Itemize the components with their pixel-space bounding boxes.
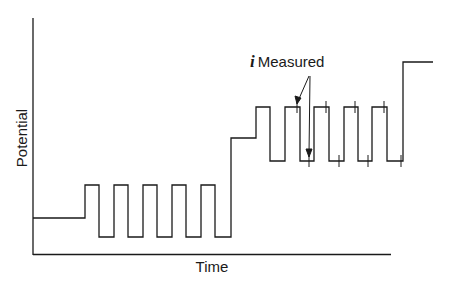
axes <box>33 18 391 255</box>
annotation-text: Measured <box>258 53 325 70</box>
current-symbol: i <box>250 52 255 71</box>
potential-waveform <box>33 62 433 237</box>
annotation-arrows <box>295 76 312 157</box>
y-axis-label: Potential <box>13 109 30 167</box>
measurement-ticks <box>297 101 401 167</box>
arrowhead-icon <box>306 149 312 157</box>
diagram-canvas: Potential Time iMeasured <box>0 0 451 283</box>
arrow-to-reverse-measurement <box>309 76 310 154</box>
waveform-plot <box>0 0 451 283</box>
arrowhead-icon <box>295 96 301 104</box>
x-axis-label: Time <box>196 258 229 275</box>
measurement-annotation: iMeasured <box>250 52 324 72</box>
